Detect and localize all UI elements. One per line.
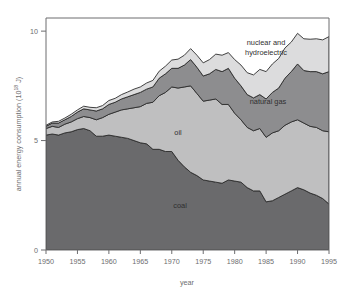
x-tick-label: 1975	[195, 257, 211, 266]
y-axis-title-group: annual energy consumption (1018 J)	[13, 77, 23, 191]
x-tick-label: 1980	[227, 257, 243, 266]
x-tick-label: 1960	[101, 257, 117, 266]
y-tick-label: 0	[34, 246, 38, 255]
x-tick-label: 1965	[132, 257, 148, 266]
x-tick-label: 1990	[290, 257, 306, 266]
energy-consumption-figure: 1950195519601965197019751980198519901995…	[0, 0, 342, 293]
y-axis-title-main: annual energy consumption (10	[14, 91, 23, 192]
x-tick-label: 1955	[69, 257, 85, 266]
series-label-nuclear-line2: hydroelectric	[245, 48, 287, 57]
x-axis-title: year	[180, 278, 195, 287]
series-label-oil: oil	[174, 128, 182, 137]
y-axis-title: annual energy consumption (1018 J)	[13, 77, 23, 191]
y-tick-label: 10	[30, 27, 38, 36]
stacked-area-chart: 1950195519601965197019751980198519901995…	[0, 0, 342, 293]
series-label-coal: coal	[173, 201, 187, 210]
x-tick-label: 1950	[38, 257, 54, 266]
series-label-natural-gas: natural gas	[250, 97, 287, 106]
y-axis-title-tail: J)	[14, 77, 23, 85]
x-tick-label: 1995	[321, 257, 337, 266]
x-tick-label: 1970	[164, 257, 180, 266]
x-tick-label: 1985	[258, 257, 274, 266]
series-label-nuclear-line1: nuclear and	[247, 38, 286, 47]
y-tick-label: 5	[34, 136, 38, 145]
